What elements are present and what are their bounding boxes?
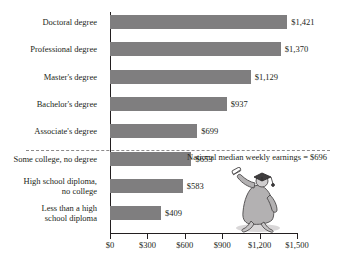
x-axis-tick bbox=[185, 234, 186, 239]
median-reference-label: National median weekly earnings = $696 bbox=[187, 152, 327, 162]
x-axis-tick bbox=[110, 234, 111, 239]
bar bbox=[110, 152, 191, 166]
x-axis-tick bbox=[297, 234, 298, 239]
bar-value-label: $1,421 bbox=[291, 15, 314, 29]
bar-value-label: $937 bbox=[231, 97, 248, 111]
bar bbox=[110, 97, 227, 111]
bar bbox=[110, 179, 183, 193]
median-reference-line bbox=[26, 150, 330, 151]
graduate-illustration-icon bbox=[218, 166, 292, 234]
bar-value-label: $583 bbox=[187, 179, 204, 193]
earnings-by-education-bar-chart: Doctoral degree$1,421Professional degree… bbox=[0, 0, 362, 268]
bar bbox=[110, 42, 281, 56]
x-axis-tick-label: $1,500 bbox=[285, 240, 308, 250]
x-axis-tick bbox=[222, 234, 223, 239]
x-axis-tick bbox=[147, 234, 148, 239]
bar-value-label: $1,129 bbox=[255, 70, 278, 84]
x-axis-tick-label: $600 bbox=[176, 240, 193, 250]
category-label: Master's degree bbox=[0, 72, 97, 82]
x-axis-tick-label: $0 bbox=[106, 240, 115, 250]
bar bbox=[110, 15, 287, 29]
category-label: High school diploma, no college bbox=[0, 176, 97, 196]
x-axis-tick bbox=[260, 234, 261, 239]
bar bbox=[110, 124, 197, 138]
bar-value-label: $1,370 bbox=[285, 42, 308, 56]
category-label: Bachelor's degree bbox=[0, 99, 97, 109]
bar bbox=[110, 70, 251, 84]
bar-value-label: $699 bbox=[201, 124, 218, 138]
category-label: Professional degree bbox=[0, 44, 97, 54]
category-label: Doctoral degree bbox=[0, 17, 97, 27]
x-axis-tick-label: $900 bbox=[214, 240, 231, 250]
bar bbox=[110, 206, 161, 220]
category-label: Some college, no degree bbox=[0, 154, 97, 164]
category-label: Less than a high school diploma bbox=[0, 203, 97, 223]
category-label: Associate's degree bbox=[0, 126, 97, 136]
x-axis-tick-label: $300 bbox=[139, 240, 156, 250]
x-axis-tick-label: $1,200 bbox=[248, 240, 271, 250]
bar-value-label: $409 bbox=[165, 206, 182, 220]
